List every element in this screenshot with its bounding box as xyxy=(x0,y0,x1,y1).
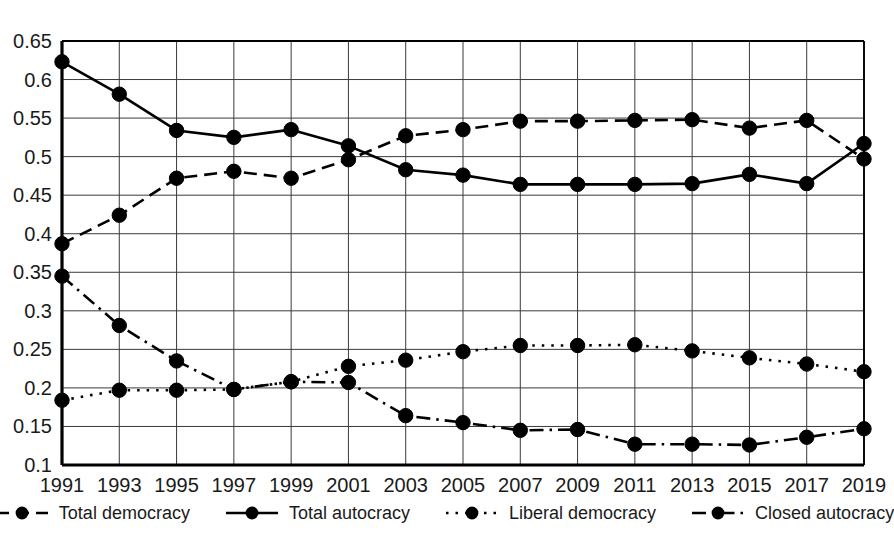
data-point xyxy=(685,437,699,451)
data-point xyxy=(341,375,355,389)
legend-item-closed-autocracy[interactable]: Closed autocracy xyxy=(690,504,894,522)
data-point xyxy=(227,130,241,144)
y-tick-label: 0.5 xyxy=(0,147,52,167)
data-point xyxy=(456,122,470,136)
data-point xyxy=(800,430,814,444)
y-tick-label: 0.45 xyxy=(0,185,52,205)
data-point xyxy=(399,129,413,143)
data-point xyxy=(341,359,355,373)
data-point xyxy=(628,113,642,127)
y-tick-label: 0.2 xyxy=(0,378,52,398)
data-point xyxy=(513,177,527,191)
data-point xyxy=(857,136,871,150)
data-point xyxy=(628,338,642,352)
data-point xyxy=(570,422,584,436)
data-point xyxy=(857,422,871,436)
data-point xyxy=(513,423,527,437)
legend-item-total-autocracy[interactable]: Total autocracy xyxy=(224,504,410,522)
x-tick-label: 1993 xyxy=(89,475,149,495)
data-point xyxy=(341,153,355,167)
legend-item-label: Liberal democracy xyxy=(509,504,656,522)
data-point xyxy=(857,365,871,379)
data-point xyxy=(227,164,241,178)
gridlines xyxy=(62,41,864,465)
data-point xyxy=(112,383,126,397)
chart-legend: Total democracyTotal autocracyLiberal de… xyxy=(0,495,888,531)
x-tick-label: 1997 xyxy=(204,475,264,495)
x-tick-label: 2001 xyxy=(318,475,378,495)
data-point xyxy=(742,167,756,181)
data-point xyxy=(227,382,241,396)
legend-marker-icon xyxy=(0,504,50,522)
data-point xyxy=(456,168,470,182)
data-point xyxy=(169,123,183,137)
legend-marker-icon xyxy=(224,504,280,522)
x-tick-label: 2009 xyxy=(548,475,608,495)
data-point xyxy=(742,438,756,452)
data-point xyxy=(112,208,126,222)
x-tick-label: 2019 xyxy=(834,475,894,495)
data-point xyxy=(857,152,871,166)
data-point xyxy=(800,176,814,190)
data-point xyxy=(628,437,642,451)
y-tick-label: 0.6 xyxy=(0,70,52,90)
x-tick-label: 1991 xyxy=(32,475,92,495)
data-point xyxy=(284,171,298,185)
data-point xyxy=(169,171,183,185)
x-tick-label: 2015 xyxy=(719,475,779,495)
y-tick-label: 0.15 xyxy=(0,416,52,436)
data-point xyxy=(570,114,584,128)
y-tick-label: 0.25 xyxy=(0,339,52,359)
data-point xyxy=(55,237,69,251)
legend-item-label: Total autocracy xyxy=(289,504,410,522)
data-point xyxy=(55,269,69,283)
x-tick-label: 2003 xyxy=(376,475,436,495)
data-point xyxy=(628,177,642,191)
legend-marker-icon xyxy=(444,504,500,522)
legend-marker-icon xyxy=(690,504,746,522)
data-point xyxy=(112,318,126,332)
x-tick-label: 2013 xyxy=(662,475,722,495)
data-point xyxy=(341,139,355,153)
data-point xyxy=(456,415,470,429)
data-point xyxy=(742,121,756,135)
y-tick-label: 0.35 xyxy=(0,262,52,282)
data-point xyxy=(399,408,413,422)
data-point xyxy=(284,375,298,389)
x-tick-label: 2017 xyxy=(777,475,837,495)
legend-item-label: Total democracy xyxy=(59,504,190,522)
data-point xyxy=(456,344,470,358)
x-tick-label: 2007 xyxy=(490,475,550,495)
data-point xyxy=(169,354,183,368)
x-tick-label: 2005 xyxy=(433,475,493,495)
x-tick-label: 2011 xyxy=(605,475,665,495)
data-point xyxy=(169,383,183,397)
data-point xyxy=(685,112,699,126)
x-tick-label: 1995 xyxy=(147,475,207,495)
data-point xyxy=(399,353,413,367)
y-tick-label: 0.1 xyxy=(0,455,52,475)
data-point xyxy=(570,338,584,352)
y-tick-label: 0.55 xyxy=(0,108,52,128)
y-tick-label: 0.4 xyxy=(0,224,52,244)
legend-item-label: Closed autocracy xyxy=(755,504,894,522)
data-point xyxy=(800,113,814,127)
data-point xyxy=(55,393,69,407)
data-point xyxy=(112,87,126,101)
y-tick-label: 0.65 xyxy=(0,31,52,51)
legend-item-total-democracy[interactable]: Total democracy xyxy=(0,504,190,522)
x-tick-label: 1999 xyxy=(261,475,321,495)
data-point xyxy=(399,163,413,177)
data-point xyxy=(284,122,298,136)
data-point xyxy=(513,114,527,128)
data-point xyxy=(55,55,69,69)
data-point xyxy=(513,338,527,352)
data-point xyxy=(685,176,699,190)
data-point xyxy=(800,357,814,371)
y-tick-label: 0.3 xyxy=(0,301,52,321)
data-point xyxy=(685,344,699,358)
legend-item-liberal-democracy[interactable]: Liberal democracy xyxy=(444,504,656,522)
data-point xyxy=(570,177,584,191)
